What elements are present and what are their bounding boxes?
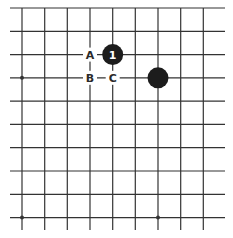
label-b: B — [83, 71, 97, 85]
svg-text:B: B — [86, 72, 94, 85]
svg-text:1: 1 — [109, 49, 117, 62]
black-stone: 1 — [102, 44, 123, 65]
go-board-diagram: ABC 1 — [0, 0, 233, 238]
star-point — [20, 76, 24, 80]
horizontal-grid-lines — [10, 8, 225, 218]
vertical-grid-lines — [22, 8, 203, 230]
star-point — [20, 216, 24, 220]
svg-text:A: A — [86, 49, 95, 62]
label-a: A — [83, 48, 97, 62]
black-stone — [148, 67, 169, 88]
label-c: C — [106, 71, 120, 85]
star-point — [156, 216, 160, 220]
svg-text:C: C — [109, 72, 117, 85]
